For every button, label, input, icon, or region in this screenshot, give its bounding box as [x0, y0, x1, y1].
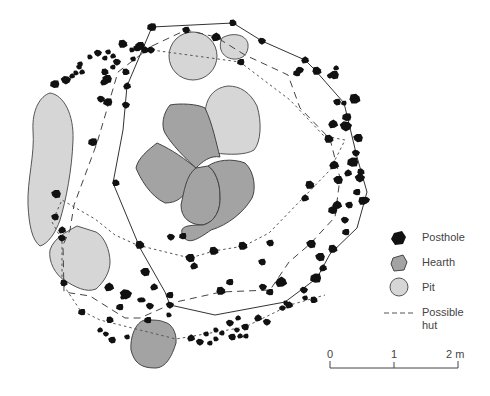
posthole — [179, 233, 186, 239]
posthole — [313, 67, 322, 75]
posthole — [147, 47, 155, 54]
posthole — [103, 332, 109, 337]
posthole — [279, 306, 285, 311]
posthole — [263, 319, 271, 326]
posthole — [76, 65, 82, 70]
posthole — [350, 94, 361, 104]
posthole — [104, 282, 114, 291]
hearth-icon — [391, 255, 407, 271]
posthole — [217, 287, 226, 295]
posthole — [219, 331, 225, 336]
posthole — [228, 334, 236, 341]
posthole — [237, 59, 244, 65]
pit-left-elongated — [28, 93, 73, 246]
posthole — [122, 69, 129, 75]
posthole — [123, 82, 131, 89]
posthole — [235, 315, 241, 320]
posthole-icon — [391, 231, 406, 245]
legend-label-hut-line2: hut — [422, 319, 437, 331]
posthole — [306, 240, 316, 248]
posthole — [108, 337, 116, 344]
legend-label-hut-line1: Possible — [422, 306, 464, 318]
posthole — [102, 56, 107, 61]
posthole — [140, 297, 145, 302]
posthole — [185, 254, 195, 262]
posthole — [315, 253, 325, 261]
posthole — [310, 297, 317, 303]
posthole — [50, 80, 59, 88]
scale-bar: 0 1 2 m — [327, 348, 464, 368]
posthole — [119, 40, 128, 48]
posthole — [61, 76, 71, 85]
posthole — [116, 304, 123, 310]
posthole — [341, 101, 347, 106]
posthole — [110, 53, 116, 58]
posthole — [293, 70, 300, 76]
posthole — [166, 312, 171, 317]
posthole — [167, 234, 175, 241]
legend-label-pit: Pit — [422, 281, 435, 293]
pit-icon — [390, 278, 408, 296]
posthole — [113, 59, 121, 66]
scale-label-0: 0 — [327, 348, 333, 360]
posthole — [353, 134, 363, 142]
posthole — [207, 341, 213, 346]
posthole — [196, 339, 204, 346]
posthole — [213, 327, 218, 332]
posthole — [122, 102, 130, 109]
posthole — [342, 113, 351, 121]
posthole — [78, 309, 85, 315]
posthole — [325, 135, 334, 143]
posthole — [136, 241, 145, 249]
posthole — [213, 336, 218, 341]
posthole — [243, 334, 249, 339]
posthole — [203, 332, 209, 337]
posthole — [275, 277, 287, 288]
scale-label-2: 2 m — [446, 348, 464, 360]
posthole — [302, 296, 308, 301]
posthole — [357, 169, 364, 175]
posthole — [124, 335, 130, 340]
site-plan: Posthole Hearth Pit Possible hut 0 1 2 m — [0, 0, 490, 396]
posthole — [190, 262, 198, 269]
posthole — [210, 247, 219, 255]
posthole — [94, 50, 102, 57]
scale-label-1: 1 — [391, 348, 397, 360]
posthole — [226, 279, 233, 285]
posthole — [79, 69, 85, 74]
posthole — [182, 27, 190, 34]
legend-label-posthole: Posthole — [422, 231, 465, 243]
posthole — [328, 206, 337, 214]
posthole — [306, 181, 315, 189]
posthole — [226, 320, 234, 327]
posthole — [105, 50, 111, 55]
posthole — [97, 327, 103, 332]
posthole — [300, 287, 308, 294]
posthole — [147, 23, 156, 31]
posthole — [352, 150, 360, 157]
posthole — [101, 69, 108, 75]
posthole — [258, 259, 266, 266]
posthole — [345, 202, 353, 209]
posthole — [87, 54, 92, 59]
posthole — [333, 176, 343, 184]
posthole — [259, 284, 267, 291]
posthole — [112, 180, 119, 186]
posthole — [239, 242, 248, 250]
posthole — [106, 317, 113, 323]
posthole — [333, 99, 341, 106]
posthole — [347, 158, 358, 167]
posthole — [254, 314, 262, 321]
posthole — [130, 57, 136, 62]
posthole — [329, 245, 338, 253]
posthole — [140, 268, 150, 276]
posthole — [146, 303, 154, 310]
pit-top-round — [169, 32, 217, 80]
legend: Posthole Hearth Pit Possible hut — [384, 231, 465, 331]
legend-label-hearth: Hearth — [422, 256, 455, 268]
posthole — [333, 65, 339, 70]
posthole — [341, 217, 349, 224]
posthole — [266, 240, 274, 247]
posthole — [344, 169, 352, 176]
posthole — [110, 65, 115, 70]
